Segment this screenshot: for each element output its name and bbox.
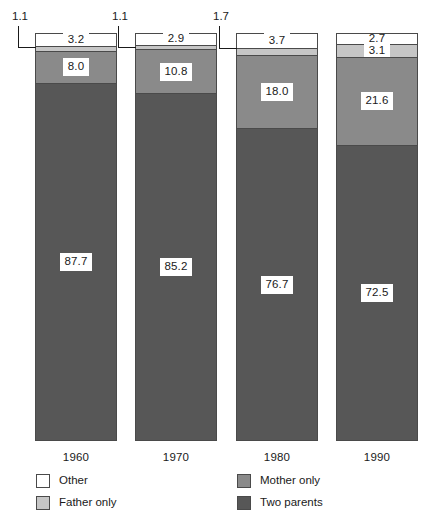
legend-label-mother-only: Mother only	[260, 475, 320, 487]
legend-column-right: Mother only Two parents	[237, 470, 323, 514]
bar-stack-1980: 3.7 18.0 76.7	[236, 33, 318, 441]
bar-value-mother-1980: 18.0	[261, 83, 294, 101]
callout-leader-horizontal-1970	[118, 47, 136, 48]
bar-segment-twoparents-1970[interactable]: 85.2	[135, 93, 217, 441]
bar-value-mother-1990: 21.6	[361, 92, 394, 110]
bar-segment-other-1960[interactable]: 3.2	[35, 33, 117, 46]
legend-swatch-other-icon	[36, 474, 50, 488]
legend-swatch-two-parents-icon	[237, 496, 251, 510]
bar-value-twoparents-1960: 87.7	[60, 253, 93, 271]
bar-stack-1970: 2.9 10.8 85.2	[135, 33, 217, 441]
callout-leader-vertical-1960	[18, 26, 19, 48]
bar-value-twoparents-1990: 72.5	[361, 284, 394, 302]
callout-leader-vertical-1970	[118, 26, 119, 48]
x-axis-tick-1990: 1990	[336, 451, 418, 463]
x-axis-tick-1980: 1980	[236, 451, 318, 463]
legend-label-father-only: Father only	[59, 497, 117, 509]
bar-segment-twoparents-1990[interactable]: 72.5	[336, 145, 418, 441]
bar-value-mother-1970: 10.8	[160, 63, 193, 81]
callout-leader-vertical-1980	[219, 26, 220, 49]
bar-segment-twoparents-1960[interactable]: 87.7	[35, 83, 117, 441]
x-axis-tick-1970: 1970	[135, 451, 217, 463]
bar-segment-father-1980[interactable]	[236, 48, 318, 55]
legend-item-two-parents[interactable]: Two parents	[237, 492, 323, 514]
bar-group-1970[interactable]: 2.9 10.8 85.2	[135, 33, 217, 441]
chart-legend: Other Father only Mother only Two parent…	[0, 470, 426, 516]
bar-segment-father-1990[interactable]: 3.1	[336, 44, 418, 57]
legend-item-other[interactable]: Other	[36, 470, 117, 492]
bar-value-mother-1960: 8.0	[63, 58, 89, 76]
bar-segment-mother-1980[interactable]: 18.0	[236, 55, 318, 128]
callout-value-1970: 1.1	[112, 11, 128, 23]
legend-label-two-parents: Two parents	[260, 497, 323, 509]
x-axis-tick-1960: 1960	[35, 451, 117, 463]
legend-item-mother-only[interactable]: Mother only	[237, 470, 323, 492]
stacked-bar-chart: 3.2 8.0 87.7 2.9 10.8	[0, 0, 426, 516]
bar-value-twoparents-1980: 76.7	[261, 276, 294, 294]
bar-group-1980[interactable]: 3.7 18.0 76.7	[236, 33, 318, 441]
bar-segment-other-1980[interactable]: 3.7	[236, 33, 318, 48]
bar-group-1990[interactable]: 2.7 3.1 21.6 72.5	[336, 33, 418, 441]
bar-segment-mother-1990[interactable]: 21.6	[336, 57, 418, 145]
legend-item-father-only[interactable]: Father only	[36, 492, 117, 514]
bar-segment-other-1970[interactable]: 2.9	[135, 33, 217, 45]
bar-segment-mother-1970[interactable]: 10.8	[135, 49, 217, 93]
bar-value-twoparents-1970: 85.2	[160, 258, 193, 276]
callout-leader-horizontal-1960	[18, 47, 36, 48]
plot-area: 3.2 8.0 87.7 2.9 10.8	[0, 0, 426, 445]
bar-stack-1960: 3.2 8.0 87.7	[35, 33, 117, 441]
callout-value-1980: 1.7	[213, 11, 229, 23]
legend-swatch-mother-only-icon	[237, 474, 251, 488]
legend-column-left: Other Father only	[36, 470, 117, 514]
legend-swatch-father-only-icon	[36, 496, 50, 510]
bar-segment-mother-1960[interactable]: 8.0	[35, 51, 117, 84]
legend-label-other: Other	[59, 475, 88, 487]
callout-leader-horizontal-1980	[219, 48, 237, 49]
bar-segment-twoparents-1980[interactable]: 76.7	[236, 128, 318, 441]
callout-value-1960: 1.1	[12, 11, 28, 23]
bar-group-1960[interactable]: 3.2 8.0 87.7	[35, 33, 117, 441]
bar-stack-1990: 2.7 3.1 21.6 72.5	[336, 33, 418, 441]
